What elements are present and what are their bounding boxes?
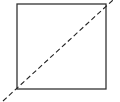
- diagram-canvas: [0, 0, 120, 102]
- dashed-diagonal-line: [3, 0, 113, 101]
